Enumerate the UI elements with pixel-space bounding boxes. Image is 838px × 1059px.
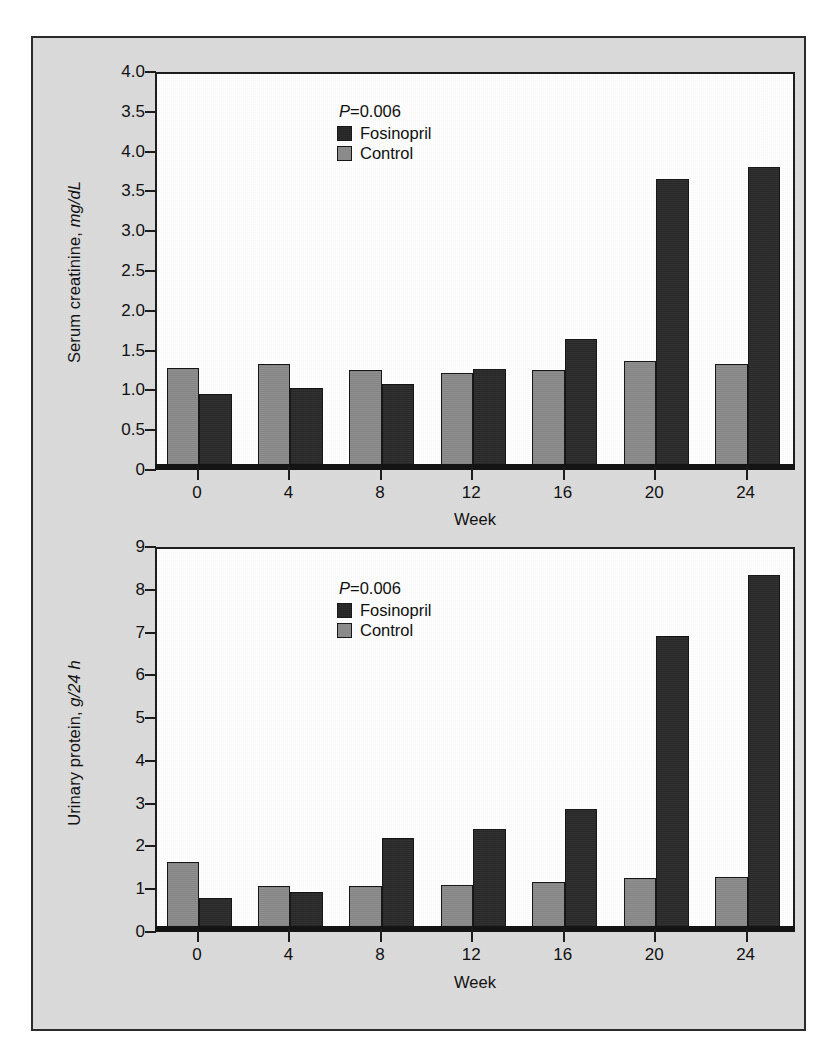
figure-frame: Serum creatinine, mg/dL 00.51.01.52.02.5… xyxy=(31,36,806,1031)
y-tick-label: 2 xyxy=(136,836,145,856)
legend-swatch-fosinopril-icon-bottom xyxy=(337,603,352,618)
y-axis-title-bottom: Urinary protein, g/24 h xyxy=(65,553,84,933)
y-tick-label: 2.5 xyxy=(121,261,145,281)
legend-label-fosinopril-top: Fosinopril xyxy=(360,124,432,143)
bars-layer-top xyxy=(157,74,793,468)
x-tick-mark xyxy=(563,929,565,942)
bar-control-week-16 xyxy=(532,882,564,930)
bar-fosinopril-week-16 xyxy=(565,809,597,930)
y-tick-label: 7 xyxy=(136,623,145,643)
x-tick-label: 4 xyxy=(284,945,293,965)
legend-p-number-top: =0.006 xyxy=(350,102,401,120)
x-tick-label: 8 xyxy=(375,945,384,965)
x-tick-label: 0 xyxy=(192,945,201,965)
y-tick-label: 0.5 xyxy=(121,420,145,440)
y-tick-label: 3.5 xyxy=(121,102,145,122)
x-tick-label: 8 xyxy=(375,483,384,503)
y-axis-title-bottom-text: Urinary protein, xyxy=(65,707,83,826)
x-tick-label: 24 xyxy=(736,483,755,503)
x-tick-label: 0 xyxy=(192,483,201,503)
y-tick-label: 1.0 xyxy=(121,380,145,400)
x-axis-ticks-bottom: 04812162024 xyxy=(155,929,795,977)
legend-swatch-fosinopril-icon-top xyxy=(337,126,352,141)
x-tick-label: 4 xyxy=(284,483,293,503)
legend-top: P=0.006 Fosinopril Control xyxy=(337,102,432,163)
x-tick-label: 16 xyxy=(553,945,572,965)
bar-fosinopril-week-24 xyxy=(748,575,780,930)
bar-fosinopril-week-8 xyxy=(382,838,414,930)
x-tick-mark xyxy=(654,467,656,480)
x-tick-mark xyxy=(654,929,656,942)
legend-bottom: P=0.006 Fosinopril Control xyxy=(337,579,432,640)
legend-row-control-bottom: Control xyxy=(337,621,432,640)
x-tick-mark xyxy=(197,929,199,942)
bar-fosinopril-week-0 xyxy=(199,394,231,468)
bar-fosinopril-week-20 xyxy=(656,179,688,468)
y-tick-label: 9 xyxy=(136,537,145,557)
y-tick-label: 1.5 xyxy=(121,341,145,361)
legend-swatch-control-icon-top xyxy=(337,146,352,161)
y-tick-label: 4.0 xyxy=(121,62,145,82)
bar-control-week-8 xyxy=(349,886,381,930)
bar-fosinopril-week-4 xyxy=(290,388,322,468)
bar-fosinopril-week-8 xyxy=(382,384,414,468)
legend-p-value-top: P=0.006 xyxy=(339,102,432,121)
bar-control-week-4 xyxy=(258,364,290,468)
legend-label-control-bottom: Control xyxy=(360,621,413,640)
bar-control-week-16 xyxy=(532,370,564,468)
x-tick-label: 12 xyxy=(462,945,481,965)
y-tick-label: 0 xyxy=(136,922,145,942)
y-tick-label: 2.0 xyxy=(121,301,145,321)
bar-fosinopril-week-24 xyxy=(748,167,780,468)
x-tick-label: 16 xyxy=(553,483,572,503)
chart-panel-urinary-protein: Urinary protein, g/24 h 0123456789 P=0.0… xyxy=(33,533,806,1013)
x-tick-label: 24 xyxy=(736,945,755,965)
bar-control-week-12 xyxy=(441,885,473,930)
y-tick-label: 8 xyxy=(136,580,145,600)
legend-p-symbol-top: P xyxy=(339,102,350,120)
bar-fosinopril-week-20 xyxy=(656,636,688,930)
x-tick-mark xyxy=(288,929,290,942)
bar-control-week-20 xyxy=(624,361,656,468)
legend-label-control-top: Control xyxy=(360,144,413,163)
bar-fosinopril-week-12 xyxy=(473,369,505,468)
x-tick-mark xyxy=(746,467,748,480)
x-tick-mark xyxy=(197,467,199,480)
legend-row-fosinopril-top: Fosinopril xyxy=(337,124,432,143)
x-tick-mark xyxy=(380,929,382,942)
x-tick-mark xyxy=(288,467,290,480)
x-tick-mark xyxy=(563,467,565,480)
plot-area-top: P=0.006 Fosinopril Control xyxy=(155,72,795,470)
bar-control-week-20 xyxy=(624,878,656,930)
y-axis-title-top-text: Serum creatinine, xyxy=(65,227,83,363)
bar-control-week-24 xyxy=(715,364,747,468)
chart-panel-serum-creatinine: Serum creatinine, mg/dL 00.51.01.52.02.5… xyxy=(33,60,806,530)
bar-control-week-12 xyxy=(441,373,473,468)
y-tick-label: 3 xyxy=(136,794,145,814)
y-tick-label: 5 xyxy=(136,708,145,728)
x-tick-label: 20 xyxy=(645,945,664,965)
x-axis-title-top: Week xyxy=(155,510,795,529)
bar-control-week-0 xyxy=(167,368,199,468)
legend-p-number-bottom: =0.006 xyxy=(350,579,401,597)
bar-fosinopril-week-12 xyxy=(473,829,505,930)
bar-control-week-24 xyxy=(715,877,747,930)
bar-control-week-4 xyxy=(258,886,290,930)
y-tick-label: 6 xyxy=(136,665,145,685)
y-tick-label: 3.5 xyxy=(121,181,145,201)
y-tick-label: 4 xyxy=(136,751,145,771)
x-tick-label: 20 xyxy=(645,483,664,503)
y-axis-title-bottom-unit: g/24 h xyxy=(65,660,83,706)
legend-row-control-top: Control xyxy=(337,144,432,163)
y-axis-ticks-bottom: 0123456789 xyxy=(89,533,155,1013)
legend-row-fosinopril-bottom: Fosinopril xyxy=(337,601,432,620)
x-tick-label: 12 xyxy=(462,483,481,503)
y-axis-title-top-unit: mg/dL xyxy=(65,181,83,227)
x-tick-mark xyxy=(746,929,748,942)
bars-layer-bottom xyxy=(157,549,793,930)
y-tick-label: 3.0 xyxy=(121,221,145,241)
y-tick-label: 0 xyxy=(136,460,145,480)
x-axis-title-bottom: Week xyxy=(155,973,795,992)
y-tick-label: 1 xyxy=(136,879,145,899)
y-axis-ticks-top: 00.51.01.52.02.53.03.54.03.54.0 xyxy=(89,60,155,530)
